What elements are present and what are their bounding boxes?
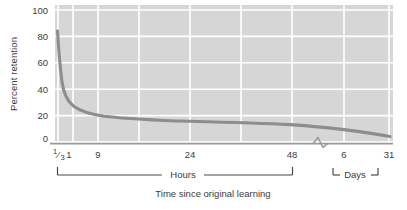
x-tick-one-third-denominator: 3 <box>61 153 65 162</box>
days-group-label: Days <box>344 169 366 180</box>
x-tick-24: 24 <box>185 149 196 160</box>
x-axis-title: Time since original learning <box>155 188 270 199</box>
y-tick-40: 40 <box>37 84 48 95</box>
y-tick-0: 0 <box>43 133 48 144</box>
forgetting-curve-figure: 100 80 60 40 20 0 Percent retention 1 ⁄ … <box>0 0 407 210</box>
x-tick-9: 9 <box>95 149 100 160</box>
y-axis-title: Percent retention <box>8 37 19 111</box>
x-tick-1: 1 <box>66 149 71 160</box>
x-tick-48: 48 <box>287 149 298 160</box>
chart-svg: 100 80 60 40 20 0 Percent retention 1 ⁄ … <box>0 0 407 210</box>
y-tick-100: 100 <box>32 5 48 16</box>
hours-group-label: Hours <box>170 169 196 180</box>
y-tick-20: 20 <box>37 110 48 121</box>
x-tick-31-days: 31 <box>384 149 395 160</box>
x-tick-6-days: 6 <box>341 149 346 160</box>
y-tick-80: 80 <box>37 31 48 42</box>
y-tick-60: 60 <box>37 57 48 68</box>
